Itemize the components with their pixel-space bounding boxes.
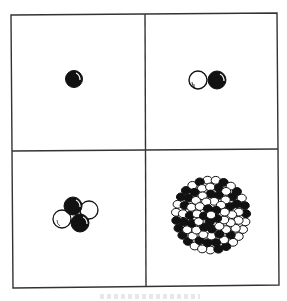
panel-top-right (189, 71, 226, 89)
proton-icon (66, 71, 83, 88)
proton-icon (71, 214, 89, 232)
proton-icon (208, 71, 226, 89)
panel-top-left (66, 71, 83, 88)
panel-bottom-left (53, 197, 98, 232)
heavy-nucleus-icon (172, 176, 251, 254)
panel-grid (11, 13, 279, 288)
panel-bottom-right (172, 176, 251, 254)
figure-caption (100, 294, 200, 299)
neutron-icon (189, 71, 207, 89)
nuclei-diagram (0, 0, 287, 301)
proton-icon (64, 197, 82, 215)
